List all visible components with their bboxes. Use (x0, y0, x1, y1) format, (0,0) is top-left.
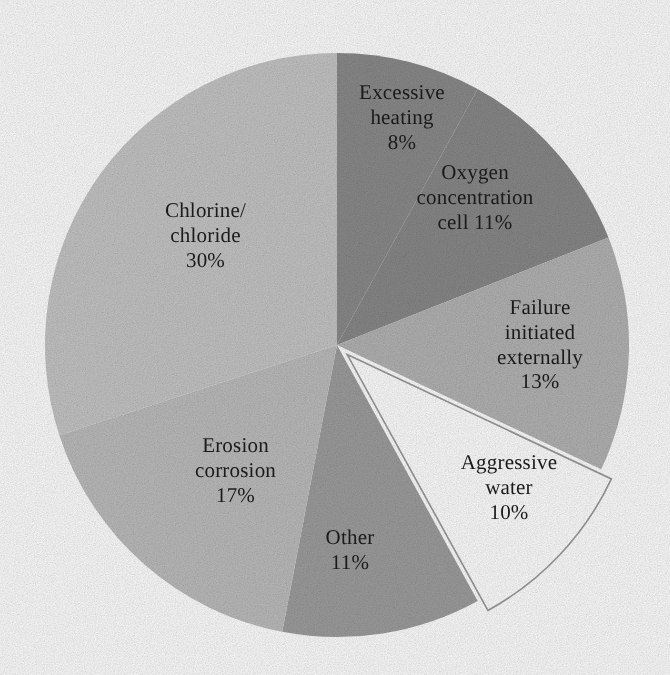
slice-label-chlorine-chloride: Chlorine/ chloride 30% (118, 198, 293, 272)
slice-label-excessive-heating: Excessive heating 8% (318, 80, 486, 154)
pie-chart: Excessive heating 8% Oxygen concentratio… (0, 0, 670, 675)
slice-label-erosion-corrosion: Erosion corrosion 17% (148, 433, 323, 507)
slice-label-aggressive-water: Aggressive water 10% (424, 450, 594, 524)
slice-label-oxygen-concentration-cell: Oxygen concentration cell 11% (370, 160, 580, 234)
slice-label-other: Other 11% (290, 525, 410, 575)
slice-label-failure-initiated-externally: Failure initiated externally 13% (460, 295, 620, 394)
